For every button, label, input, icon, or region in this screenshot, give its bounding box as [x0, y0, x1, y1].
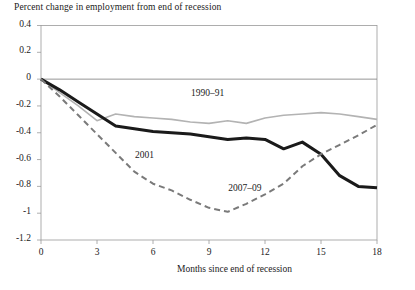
- chart-figure: Percent change in employment from end of…: [0, 0, 415, 290]
- y-tick-label: -0.4: [3, 126, 31, 136]
- series-label: 1990–91: [191, 88, 224, 98]
- y-tick-label: -1: [3, 206, 31, 216]
- y-tick-label: -0.6: [3, 153, 31, 163]
- x-tick-label: 12: [253, 247, 277, 257]
- x-tick-label: 6: [141, 247, 165, 257]
- x-tick-label: 3: [85, 247, 109, 257]
- series-line-2007-09: [41, 79, 377, 212]
- y-tick-label: 0.4: [3, 19, 31, 29]
- x-tick-label: 0: [29, 247, 53, 257]
- series-label: 2007–09: [228, 183, 261, 193]
- y-tick-label: -0.2: [3, 99, 31, 109]
- y-tick-label: -0.8: [3, 179, 31, 189]
- x-tick-label: 9: [197, 247, 221, 257]
- x-axis-title: Months since end of recession: [0, 264, 415, 274]
- x-axis-title-text: Months since end of recession: [177, 264, 292, 274]
- series-line-1990-91: [41, 79, 377, 123]
- y-tick-label: 0: [3, 72, 31, 82]
- x-tick-label: 18: [365, 247, 389, 257]
- y-tick-label: 0.2: [3, 45, 31, 55]
- x-tick-label: 15: [309, 247, 333, 257]
- y-tick-label: -1.2: [3, 233, 31, 243]
- series-label: 2001: [135, 150, 154, 160]
